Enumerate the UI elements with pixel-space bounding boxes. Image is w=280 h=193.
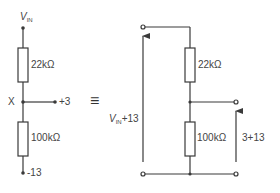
minus13-label: -13 <box>27 168 41 178</box>
bottom-right-terminal <box>234 172 238 176</box>
node-x-label: X <box>8 97 15 107</box>
output-voltage-label: 3+13 <box>242 133 265 143</box>
right-circuit <box>141 25 238 176</box>
top-left-terminal <box>141 25 145 29</box>
vin-plus13-label: VIN+13 <box>109 114 139 127</box>
resistor-22k-right <box>185 48 195 82</box>
bottom-left-terminal <box>141 172 145 176</box>
left-circuit <box>18 26 57 175</box>
circuit-diagram <box>0 0 280 193</box>
resistor-100k-right <box>185 122 195 156</box>
equivalence-symbol: ≡ <box>90 93 99 109</box>
resistor-22k-left <box>18 48 28 82</box>
resistor-100k-label-left: 100kΩ <box>31 133 60 143</box>
minus13-terminal-dot <box>21 171 25 175</box>
resistor-100k-left <box>18 122 28 156</box>
plus3-label: +3 <box>59 97 70 107</box>
resistor-100k-label-right: 100kΩ <box>197 133 226 143</box>
output-terminal <box>234 100 238 104</box>
resistor-22k-label-left: 22kΩ <box>31 60 55 70</box>
vin-label-left: VIN <box>20 12 33 25</box>
plus3-terminal-dot <box>53 100 57 104</box>
resistor-22k-label-right: 22kΩ <box>198 60 222 70</box>
